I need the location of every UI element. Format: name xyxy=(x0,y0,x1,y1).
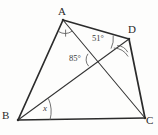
angle-label-x: x xyxy=(43,104,47,113)
side-BC xyxy=(18,118,145,120)
angle-label-51: 51° xyxy=(92,34,104,43)
vertex-dot-D xyxy=(128,38,131,41)
side-AB xyxy=(18,20,63,120)
angle-arc-x xyxy=(48,99,51,120)
vertex-label-C: C xyxy=(146,115,153,126)
vertex-dot-A xyxy=(62,19,65,22)
vertex-label-D: D xyxy=(128,24,136,35)
side-DC xyxy=(129,39,145,118)
geometry-figure: A B C D 51° 85° x xyxy=(0,0,158,135)
vertex-label-B: B xyxy=(2,110,9,121)
angle-arc-85 xyxy=(86,54,89,66)
geometry-svg xyxy=(0,0,158,135)
vertex-dot-B xyxy=(17,119,20,122)
vertex-label-A: A xyxy=(58,6,66,17)
angle-label-85: 85° xyxy=(69,54,81,63)
angle-arc-51 xyxy=(111,36,113,49)
